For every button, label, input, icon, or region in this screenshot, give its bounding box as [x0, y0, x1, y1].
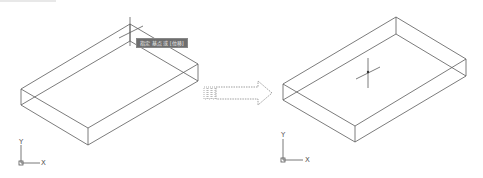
- right-box-back-bottom-edges: [283, 34, 466, 100]
- ucs-x-label-left: X: [41, 159, 46, 167]
- right-box[interactable]: [283, 17, 466, 142]
- right-box-bottom-edges: [283, 76, 466, 142]
- dynamic-input-tooltip: 指定 基点 或 [位移]: [136, 38, 188, 48]
- center-point-marker-icon: [356, 58, 380, 88]
- dotted-right-arrow-icon: [204, 81, 272, 105]
- ucs-icon-left: Y X: [18, 138, 46, 167]
- ucs-y-label-left: Y: [18, 138, 24, 146]
- left-box-bottom-edges: [21, 81, 198, 145]
- ucs-x-label-right: X: [305, 156, 310, 164]
- ucs-icon-right: Y X: [280, 131, 310, 164]
- cad-drawing-area[interactable]: Y X Y X: [0, 0, 483, 178]
- right-box-top-face: [283, 17, 466, 126]
- ucs-y-label-right: Y: [280, 131, 286, 139]
